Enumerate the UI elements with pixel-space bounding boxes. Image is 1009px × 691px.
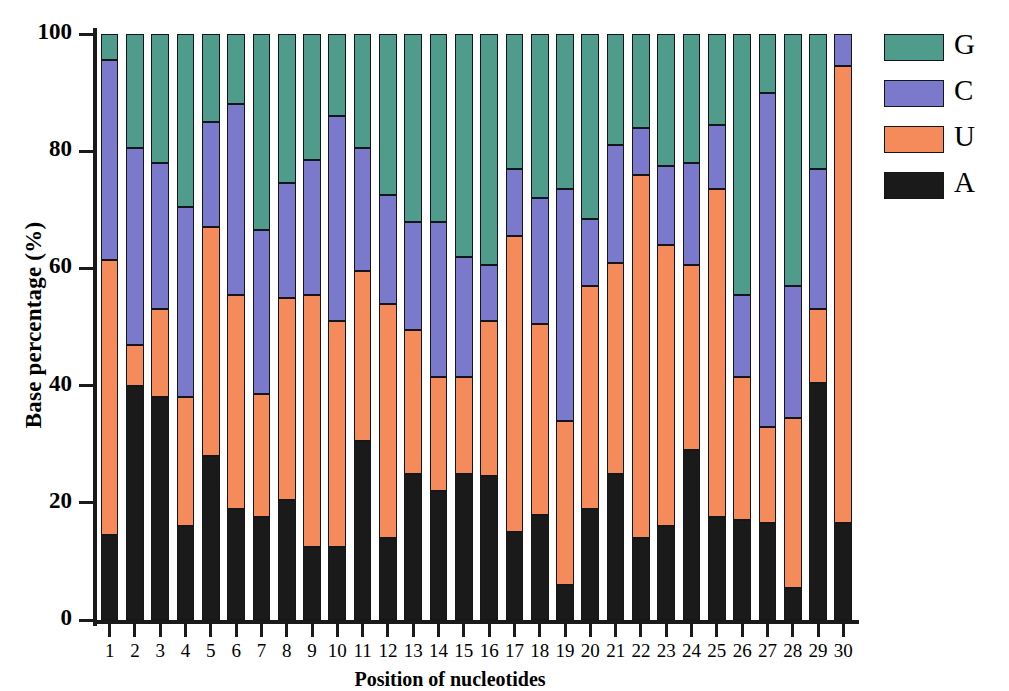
bar-segment-a: [404, 474, 422, 621]
bar-segment-c: [430, 222, 448, 377]
bar-segment-g: [303, 34, 321, 160]
bar-segment-c: [480, 265, 498, 321]
bar-segment-g: [581, 34, 599, 219]
bar-segment-c: [278, 183, 296, 297]
bar-column: [480, 34, 498, 620]
bar-column: [683, 34, 701, 620]
bar-segment-u: [328, 321, 346, 547]
bar-segment-u: [733, 377, 751, 521]
bar-column: [809, 34, 827, 620]
x-axis-tick: [842, 624, 845, 637]
bar-segment-c: [581, 219, 599, 286]
bar-segment-u: [632, 175, 650, 538]
x-axis-tick: [665, 624, 668, 637]
legend-item: C: [884, 76, 1004, 122]
bar-segment-c: [354, 148, 372, 271]
bar-column: [607, 34, 625, 620]
bar-segment-a: [733, 520, 751, 620]
bar-segment-a: [328, 547, 346, 620]
bar-segment-g: [202, 34, 220, 122]
y-axis-tick: [79, 619, 94, 622]
bar-segment-g: [101, 34, 119, 60]
bar-segment-g: [379, 34, 397, 195]
bar-column: [177, 34, 195, 620]
bar-segment-u: [430, 377, 448, 491]
bar-segment-u: [379, 304, 397, 538]
bar-column: [581, 34, 599, 620]
x-axis-tick: [690, 624, 693, 637]
bar-segment-a: [784, 588, 802, 620]
bar-column: [354, 34, 372, 620]
bar-segment-u: [101, 260, 119, 535]
x-axis-tick: [184, 624, 187, 637]
x-axis-tick: [437, 624, 440, 637]
legend-label: G: [954, 28, 975, 61]
bar-segment-g: [177, 34, 195, 207]
bar-column: [253, 34, 271, 620]
bar-segment-g: [556, 34, 574, 189]
bar-segment-a: [759, 523, 777, 620]
legend-swatch-c: [884, 80, 944, 107]
bar-segment-a: [506, 532, 524, 620]
legend-swatch-g: [884, 34, 944, 61]
bar-segment-g: [708, 34, 726, 125]
x-axis-tick: [766, 624, 769, 637]
bar-segment-g: [227, 34, 245, 104]
y-axis-tick-label: 60: [10, 253, 72, 279]
bar-segment-u: [708, 189, 726, 517]
bar-segment-u: [531, 324, 549, 514]
bar-segment-c: [101, 60, 119, 259]
bar-segment-c: [733, 295, 751, 377]
bar-segment-a: [126, 386, 144, 620]
bar-segment-c: [328, 116, 346, 321]
bar-segment-a: [809, 383, 827, 620]
bar-segment-c: [759, 93, 777, 427]
x-axis-tick: [260, 624, 263, 637]
legend-swatch-a: [884, 172, 944, 199]
bar-segment-a: [581, 509, 599, 620]
x-axis-tick: [159, 624, 162, 637]
bar-segment-u: [480, 321, 498, 476]
bar-segment-u: [759, 427, 777, 524]
bar-column: [759, 34, 777, 620]
bar-segment-a: [556, 585, 574, 620]
bar-segment-c: [632, 128, 650, 175]
x-axis-tick: [311, 624, 314, 637]
bar-segment-u: [657, 245, 675, 526]
bar-segment-c: [227, 104, 245, 294]
x-axis-tick: [462, 624, 465, 637]
bar-segment-a: [151, 397, 169, 620]
x-axis-tick: [412, 624, 415, 637]
bar-segment-g: [531, 34, 549, 198]
bar-segment-a: [227, 509, 245, 620]
legend-item: G: [884, 30, 1004, 76]
bar-segment-u: [303, 295, 321, 547]
bar-segment-a: [455, 474, 473, 621]
bar-segment-g: [354, 34, 372, 148]
bar-segment-a: [101, 535, 119, 620]
bar-segment-a: [430, 491, 448, 620]
bar-segment-g: [253, 34, 271, 230]
bar-segment-c: [506, 169, 524, 236]
bar-column: [126, 34, 144, 620]
x-axis-tick: [564, 624, 567, 637]
y-axis-tick-label: 100: [10, 19, 72, 45]
bar-segment-g: [404, 34, 422, 222]
x-axis-tick: [235, 624, 238, 637]
bar-column: [632, 34, 650, 620]
bar-segment-u: [784, 418, 802, 588]
bar-segment-c: [657, 166, 675, 245]
bar-column: [379, 34, 397, 620]
y-axis-tick: [79, 150, 94, 153]
x-axis-tick: [108, 624, 111, 637]
bar-column: [404, 34, 422, 620]
bar-column: [531, 34, 549, 620]
bar-segment-u: [126, 345, 144, 386]
x-axis-tick: [538, 624, 541, 637]
bar-segment-c: [834, 34, 852, 66]
bar-segment-g: [809, 34, 827, 169]
legend-label: U: [954, 120, 975, 153]
bar-segment-u: [354, 271, 372, 441]
bar-segment-g: [328, 34, 346, 116]
bar-column: [708, 34, 726, 620]
